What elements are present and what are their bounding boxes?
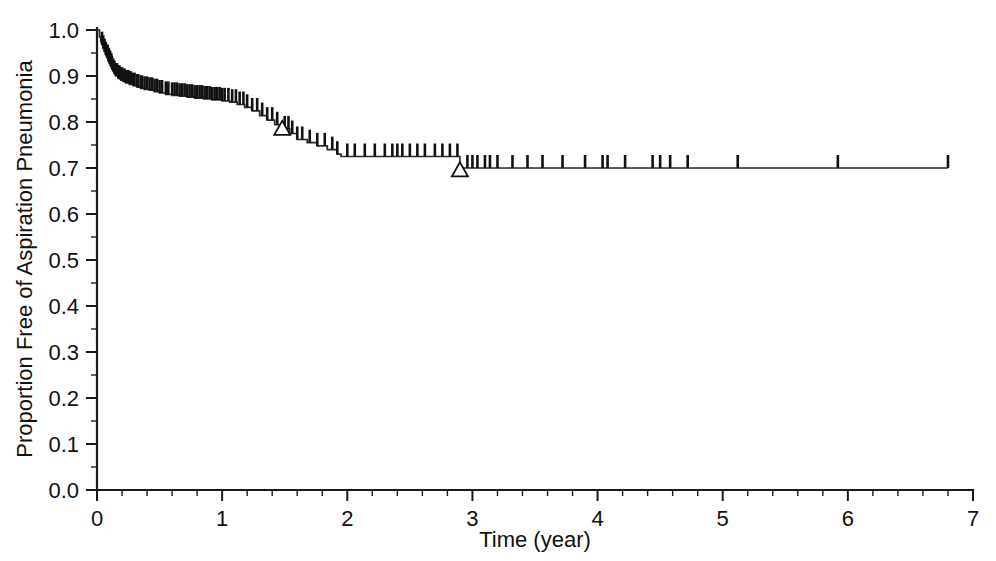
svg-text:5: 5 [717, 506, 729, 531]
svg-text:3: 3 [466, 506, 478, 531]
svg-text:1.0: 1.0 [48, 18, 79, 43]
svg-text:0.3: 0.3 [48, 340, 79, 365]
svg-text:0: 0 [91, 506, 103, 531]
svg-text:0.5: 0.5 [48, 248, 79, 273]
svg-text:0.6: 0.6 [48, 202, 79, 227]
svg-text:0.2: 0.2 [48, 386, 79, 411]
x-axis-ticks [97, 490, 973, 501]
kaplan-meier-chart: 0.00.10.20.30.40.50.60.70.80.91.0 012345… [0, 0, 996, 561]
svg-text:0.9: 0.9 [48, 64, 79, 89]
svg-text:0.0: 0.0 [48, 478, 79, 503]
y-axis-ticks [86, 30, 97, 490]
y-axis-tick-labels: 0.00.10.20.30.40.50.60.70.80.91.0 [48, 18, 79, 503]
svg-text:6: 6 [842, 506, 854, 531]
y-axis-title: Proportion Free of Aspiration Pneumonia [12, 60, 37, 458]
svg-text:1: 1 [216, 506, 228, 531]
svg-text:4: 4 [591, 506, 603, 531]
svg-text:0.1: 0.1 [48, 432, 79, 457]
svg-text:7: 7 [967, 506, 979, 531]
svg-text:0.4: 0.4 [48, 294, 79, 319]
svg-text:0.7: 0.7 [48, 156, 79, 181]
svg-text:2: 2 [341, 506, 353, 531]
censoring-marks [102, 32, 948, 168]
x-axis-title: Time (year) [479, 527, 591, 552]
svg-text:0.8: 0.8 [48, 110, 79, 135]
figure-canvas: 0.00.10.20.30.40.50.60.70.80.91.0 012345… [0, 0, 996, 561]
